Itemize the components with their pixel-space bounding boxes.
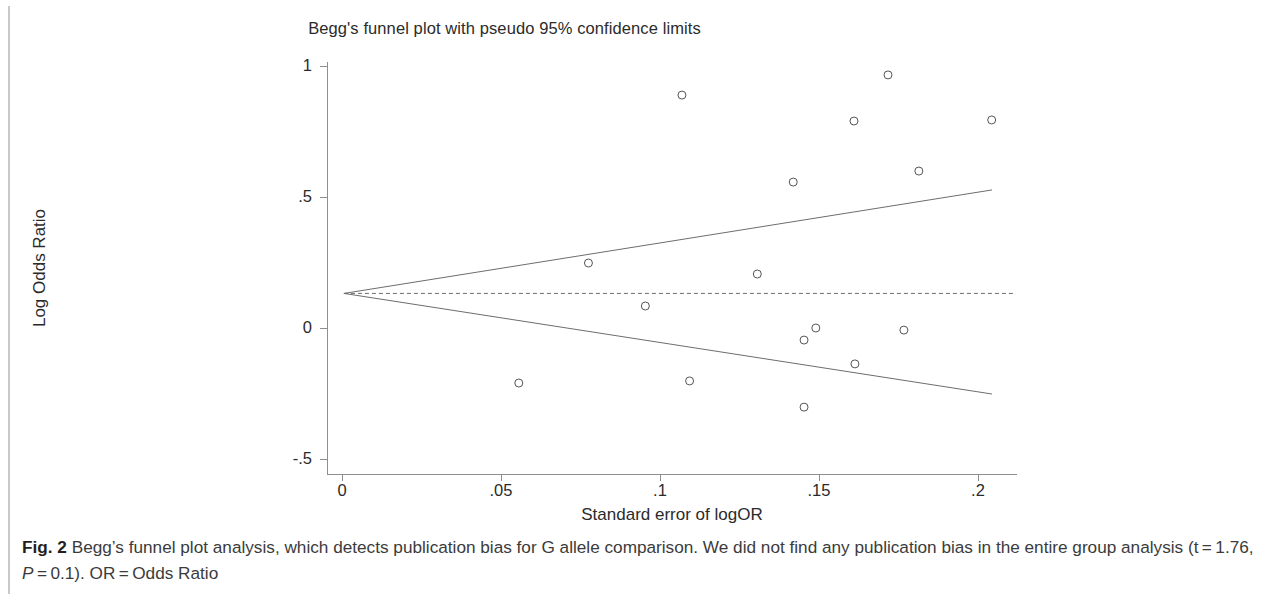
study-data-point <box>641 302 649 310</box>
ci-lower-line <box>344 293 992 394</box>
caption-line-2-b: = 0.1). OR = Odds Ratio <box>33 563 218 583</box>
study-data-point <box>915 167 923 175</box>
funnel-plot-canvas <box>0 0 1273 512</box>
study-data-point <box>800 336 808 344</box>
caption-line-1: Begg’s funnel plot analysis, which detec… <box>72 537 1068 557</box>
ci-upper-line <box>344 190 992 293</box>
figure-page: Begg's funnel plot with pseudo 95% confi… <box>0 0 1273 600</box>
figure-caption: Fig. 2 Begg’s funnel plot analysis, whic… <box>22 534 1262 586</box>
caption-line-2-a: group analysis (t = 1.76, <box>1072 537 1253 557</box>
study-data-point <box>584 259 592 267</box>
study-data-point <box>678 91 686 99</box>
caption-figure-number: Fig. 2 <box>22 537 67 557</box>
study-data-point <box>884 71 892 79</box>
caption-p-symbol: P <box>22 563 33 583</box>
study-data-point <box>789 178 797 186</box>
study-data-point <box>686 377 694 385</box>
study-data-point <box>850 117 858 125</box>
study-data-point <box>753 270 761 278</box>
funnel-plot-figure: Begg's funnel plot with pseudo 95% confi… <box>0 0 1273 512</box>
study-data-point <box>812 324 820 332</box>
study-data-point <box>800 403 808 411</box>
study-data-point <box>515 379 523 387</box>
study-data-point <box>988 116 996 124</box>
study-data-point <box>900 326 908 334</box>
study-data-point <box>851 360 859 368</box>
